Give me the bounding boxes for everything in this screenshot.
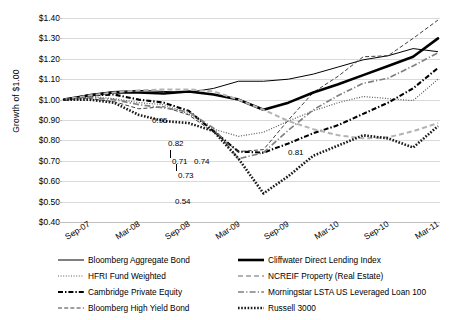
y-axis-label: $1.10 xyxy=(20,75,60,84)
legend-item-label: Cambridge Private Equity xyxy=(88,288,182,297)
legend-item-label: Bloomberg High Yield Bond xyxy=(88,304,189,313)
data-label: 0.82 xyxy=(168,139,184,148)
y-axis-label: $0.70 xyxy=(20,157,60,166)
legend-item[interactable]: Bloomberg High Yield Bond xyxy=(58,301,189,315)
legend-line-swatch-icon xyxy=(238,303,264,313)
y-axis-label: $0.90 xyxy=(20,116,60,125)
legend-line-swatch-icon xyxy=(58,255,84,265)
plot-area: Growth of $1.00 $1.40$1.30$1.20$1.10$1.0… xyxy=(0,0,455,250)
legend-item-label: HFRI Fund Weighted xyxy=(88,272,166,281)
label-leader-line xyxy=(170,150,171,158)
x-axis-label: Mar-10 xyxy=(297,219,341,252)
legend-line-swatch-icon xyxy=(58,287,84,297)
series-line xyxy=(64,79,438,136)
y-axis-label: $0.50 xyxy=(20,198,60,207)
legend-item-label: Bloomberg Aggregate Bond xyxy=(88,256,190,265)
legend-item[interactable]: Russell 3000 xyxy=(238,301,316,315)
x-axis-label: Mar-08 xyxy=(97,219,141,252)
y-axis-label: $1.00 xyxy=(20,96,60,105)
x-axis-label: Sep-10 xyxy=(346,219,390,252)
x-axis-tick-labels: Sep-07Mar-08Sep-08Mar-09Sep-09Mar-10Sep-… xyxy=(0,212,455,252)
chart-root: Growth of $1.00 $1.40$1.30$1.20$1.10$1.0… xyxy=(0,0,455,320)
data-label: 0.95 xyxy=(152,116,168,125)
legend-item-label: NCREIF Property (Real Estate) xyxy=(268,272,383,281)
label-leader-line xyxy=(176,164,177,171)
x-axis-label: Sep-07 xyxy=(47,219,91,252)
legend-line-swatch-icon xyxy=(58,271,84,281)
chart-legend: Bloomberg Aggregate BondHFRI Fund Weight… xyxy=(0,252,455,320)
legend-line-swatch-icon xyxy=(238,255,264,265)
legend-item-label: Cliffwater Direct Lending Index xyxy=(268,256,381,265)
data-label: 0.81 xyxy=(288,148,304,157)
series-line xyxy=(64,68,438,153)
data-label: 0.74 xyxy=(194,157,210,166)
x-axis-label: Mar-09 xyxy=(197,219,241,252)
legend-line-swatch-icon xyxy=(238,271,264,281)
legend-item[interactable]: Morningstar LSTA US Leveraged Loan 100 xyxy=(238,285,426,299)
series-line xyxy=(64,100,438,194)
legend-item[interactable]: HFRI Fund Weighted xyxy=(58,269,166,283)
legend-line-swatch-icon xyxy=(58,303,84,313)
legend-item[interactable]: Bloomberg Aggregate Bond xyxy=(58,253,190,267)
data-label: 0.73 xyxy=(178,171,194,180)
x-axis-label: Mar-11 xyxy=(396,219,440,252)
legend-line-swatch-icon xyxy=(238,287,264,297)
y-axis-label: $0.80 xyxy=(20,136,60,145)
y-axis-label: $1.20 xyxy=(20,55,60,64)
y-axis-label: $0.60 xyxy=(20,177,60,186)
series-line xyxy=(64,38,438,109)
legend-item[interactable]: Cliffwater Direct Lending Index xyxy=(238,253,381,267)
x-axis-label: Sep-08 xyxy=(147,219,191,252)
data-label: 0.71 xyxy=(172,157,188,166)
y-axis-label: $1.40 xyxy=(20,14,60,23)
y-axis-label: $1.30 xyxy=(20,34,60,43)
legend-item[interactable]: NCREIF Property (Real Estate) xyxy=(238,269,383,283)
data-label: 0.54 xyxy=(175,197,191,206)
series-line xyxy=(64,20,438,152)
legend-item-label: Russell 3000 xyxy=(268,304,316,313)
legend-item[interactable]: Cambridge Private Equity xyxy=(58,285,182,299)
legend-item-label: Morningstar LSTA US Leveraged Loan 100 xyxy=(268,288,426,297)
x-axis-label: Sep-09 xyxy=(247,219,291,252)
